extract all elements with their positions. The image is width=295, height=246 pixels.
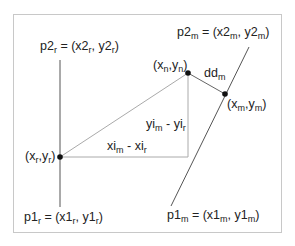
label-text: ,y (168, 58, 178, 72)
label-text: = (x2 (198, 25, 230, 39)
label-sub: m (218, 72, 226, 82)
label-text: - (163, 117, 174, 131)
label-text: yi (174, 117, 183, 131)
label-text: yi (146, 117, 155, 131)
label-point-n: (xn,yn) (153, 59, 187, 72)
label-text: p1 (24, 210, 38, 224)
label-text: , y2 (238, 25, 258, 39)
label-text: ) (262, 97, 266, 111)
label-sub: m (116, 145, 124, 155)
label-text: ) (183, 58, 187, 72)
label-sub: r (183, 123, 186, 133)
label-text: , y1 (228, 208, 248, 222)
label-point-m: (xm,ym) (227, 98, 266, 111)
label-sub: r (144, 145, 147, 155)
label-text: p2 (177, 25, 191, 39)
label-delta-y: yim - yir (146, 118, 186, 131)
label-text: ) (115, 39, 119, 53)
label-text: xi (107, 139, 116, 153)
label-p2m: p2m = (x2m, y2m) (177, 26, 269, 39)
label-p2r: p2r = (x2r, y2r) (40, 40, 119, 53)
label-text: , y1 (76, 210, 96, 224)
point-m (222, 91, 228, 97)
label-text: ,y (245, 97, 255, 111)
label-text: ) (99, 210, 103, 224)
label-text: = (x2 (57, 39, 89, 53)
label-sub: m (230, 31, 238, 41)
label-text: - (124, 139, 135, 153)
label-sub: m (237, 103, 245, 113)
label-text: xi (135, 139, 144, 153)
label-text: (x (25, 149, 35, 163)
label-sub: m (155, 123, 163, 133)
label-text: ) (255, 208, 259, 222)
label-text: = (x1 (41, 210, 73, 224)
label-text: ) (265, 25, 269, 39)
label-p1m: p1m = (x1m, y1m) (167, 209, 259, 222)
label-text: , y2 (92, 39, 112, 53)
label-ddm: ddm (204, 67, 225, 80)
label-point-r: (xr,yr) (25, 150, 55, 163)
label-text: ) (51, 149, 55, 163)
point-r (57, 154, 63, 160)
label-text: dd (204, 66, 218, 80)
label-text: p2 (40, 39, 54, 53)
label-text: = (x1 (188, 208, 220, 222)
label-text: (x (227, 97, 237, 111)
label-text: p1 (167, 208, 181, 222)
label-p1r: p1r = (x1r, y1r) (24, 211, 103, 224)
label-delta-x: xim - xir (107, 140, 147, 153)
label-sub: m (220, 214, 228, 224)
label-text: (x (153, 58, 163, 72)
label-text: ,y (38, 149, 48, 163)
